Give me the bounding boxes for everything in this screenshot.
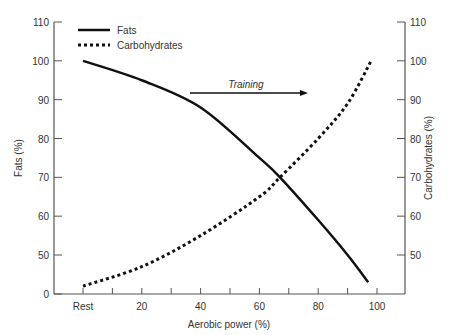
training-annotation: Training bbox=[190, 79, 308, 96]
x-tick-label: 20 bbox=[136, 301, 148, 312]
y-right-tick-label: 50 bbox=[410, 250, 422, 261]
fats-line bbox=[83, 61, 368, 282]
y-right-tick-label: 110 bbox=[410, 17, 426, 28]
legend: FatsCarbohydrates bbox=[78, 25, 183, 51]
y-right-tick-label: 100 bbox=[410, 56, 427, 67]
y-left-axis-label: Fats (%) bbox=[13, 139, 24, 177]
training-label: Training bbox=[228, 79, 264, 90]
x-tick-label: 80 bbox=[313, 301, 325, 312]
y-left-tick-label: 100 bbox=[32, 56, 49, 67]
y-left-tick-label: 70 bbox=[38, 172, 50, 183]
y-left-tick-label: 0 bbox=[43, 289, 49, 300]
y-left-tick-label: 80 bbox=[38, 134, 50, 145]
legend-fats-label: Fats bbox=[117, 25, 136, 36]
y-right-axis-label: Carbohydrates (%) bbox=[423, 116, 434, 200]
chart: Rest204060801000506070809010011050607080… bbox=[0, 0, 453, 335]
y-left-tick-label: 90 bbox=[38, 95, 50, 106]
arrowhead-icon bbox=[300, 90, 308, 96]
x-tick-label: 40 bbox=[195, 301, 207, 312]
carbohydrates-line bbox=[83, 61, 371, 286]
x-tick-label: 60 bbox=[254, 301, 266, 312]
y-right-tick-label: 60 bbox=[410, 211, 422, 222]
series bbox=[83, 61, 371, 286]
y-right-tick-label: 80 bbox=[410, 134, 422, 145]
y-left-tick-label: 50 bbox=[38, 250, 50, 261]
y-right-tick-label: 90 bbox=[410, 95, 422, 106]
y-left-tick-label: 110 bbox=[33, 17, 49, 28]
x-axis-label: Aerobic power (%) bbox=[188, 319, 270, 330]
y-left-tick-label: 60 bbox=[38, 211, 50, 222]
x-tick-label: 100 bbox=[369, 301, 386, 312]
y-right-tick-label: 70 bbox=[410, 172, 422, 183]
legend-carbohydrates-label: Carbohydrates bbox=[117, 40, 183, 51]
x-tick-label: Rest bbox=[73, 301, 94, 312]
